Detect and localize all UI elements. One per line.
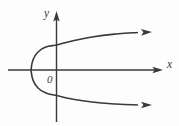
y-axis-label: y [43, 7, 50, 20]
x-axis-label: x [166, 58, 173, 70]
graph-canvas: y x 0 [0, 0, 179, 126]
figure-container: y x 0 [0, 0, 179, 126]
origin-label: 0 [47, 73, 53, 85]
figure-background [0, 0, 179, 126]
